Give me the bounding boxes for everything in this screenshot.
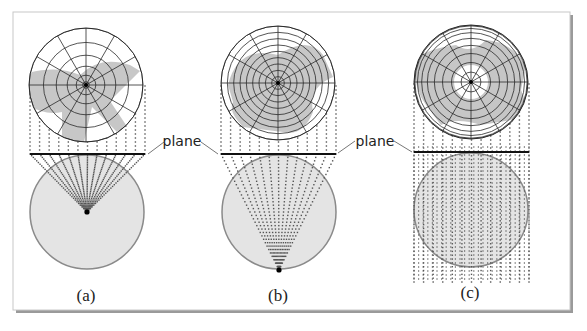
ray-dot	[432, 232, 433, 233]
ray-dot	[288, 208, 289, 209]
ray-dot	[278, 167, 279, 168]
ray-dot	[87, 155, 88, 156]
ray-dot	[285, 184, 286, 185]
ray-dot	[510, 190, 511, 191]
ray-dot	[442, 182, 443, 183]
ray-dot	[289, 204, 290, 205]
ray-dot	[304, 191, 305, 192]
ray-dot	[515, 218, 516, 219]
ray-dot	[84, 196, 85, 197]
ray-dot	[110, 175, 111, 176]
ray-dot	[63, 187, 64, 188]
ray-dot	[254, 222, 255, 223]
ray-dot	[249, 133, 250, 134]
ray-dot	[261, 167, 262, 168]
ray-dot	[288, 239, 289, 240]
ray-dot	[82, 198, 83, 199]
ray-dot	[459, 206, 460, 207]
ray-dot	[220, 145, 221, 146]
ray-dot	[100, 170, 101, 171]
ray-dot	[271, 249, 272, 250]
ray-dot	[482, 274, 483, 275]
ray-dot	[71, 164, 72, 165]
ray-dot	[296, 157, 297, 158]
ray-dot	[442, 239, 443, 240]
ray-dot	[464, 246, 465, 247]
ray-dot	[290, 245, 291, 246]
ray-dot	[519, 226, 520, 227]
ray-dot	[220, 141, 221, 142]
ray-dot	[492, 270, 493, 271]
ray-dot	[510, 262, 511, 263]
ray-dot	[515, 274, 516, 275]
ray-dot	[441, 262, 442, 263]
ray-dot	[452, 212, 453, 213]
ray-dot	[482, 226, 483, 227]
ray-dot	[423, 212, 424, 213]
ray-dot	[144, 141, 145, 142]
ray-dot	[96, 155, 97, 156]
ray-dot	[501, 262, 502, 263]
ray-dot	[528, 274, 529, 275]
ray-dot	[450, 202, 451, 203]
ray-dot	[413, 162, 414, 163]
ray-dot	[418, 242, 419, 243]
ray-dot	[482, 278, 483, 279]
ray-dot	[528, 218, 529, 219]
ray-dot	[482, 174, 483, 175]
ray-dot	[427, 190, 428, 191]
ray-dot	[441, 250, 442, 251]
ray-dot	[461, 163, 462, 164]
ray-dot	[144, 105, 145, 106]
ray-dot	[461, 205, 462, 206]
ray-dot	[432, 162, 433, 163]
ray-dot	[450, 166, 451, 167]
ray-dot	[528, 254, 529, 255]
ray-dot	[236, 184, 237, 185]
ray-dot	[423, 119, 424, 120]
ray-dot	[471, 270, 472, 271]
ray-dot	[271, 187, 272, 188]
ray-dot	[113, 172, 114, 173]
ray-dot	[248, 198, 249, 199]
ray-dot	[67, 187, 68, 188]
ray-dot	[441, 278, 442, 279]
ray-dot	[86, 203, 87, 204]
ray-dot	[492, 162, 493, 163]
ray-dot	[239, 141, 240, 142]
ray-dot	[461, 167, 462, 168]
ray-dot	[326, 125, 327, 126]
ray-dot	[423, 182, 424, 183]
ray-dot	[459, 194, 460, 195]
ray-dot	[519, 230, 520, 231]
ray-dot	[501, 234, 502, 235]
ray-dot	[459, 174, 460, 175]
ray-dot	[505, 238, 506, 239]
ray-dot	[450, 270, 451, 271]
ray-dot	[524, 278, 525, 279]
ray-dot	[459, 246, 460, 247]
ray-dot	[528, 226, 529, 227]
ray-dot	[528, 206, 529, 207]
ray-dot	[528, 139, 529, 140]
ray-dot	[273, 208, 274, 209]
ray-dot	[325, 174, 326, 175]
ray-dot	[478, 234, 479, 235]
ray-dot	[273, 249, 274, 250]
pole-dot	[84, 83, 88, 87]
ray-dot	[298, 187, 299, 188]
ray-dot	[255, 177, 256, 178]
ray-dot	[413, 166, 414, 167]
ray-dot	[446, 210, 447, 211]
ray-dot	[423, 194, 424, 195]
ray-dot	[524, 250, 525, 251]
ray-dot	[131, 167, 132, 168]
ray-dot	[528, 178, 529, 179]
ray-dot	[312, 167, 313, 168]
ray-dot	[459, 258, 460, 259]
ray-dot	[267, 204, 268, 205]
ray-dot	[528, 228, 529, 229]
ray-dot	[505, 202, 506, 203]
ray-dot	[469, 162, 470, 163]
ray-dot	[99, 186, 100, 187]
